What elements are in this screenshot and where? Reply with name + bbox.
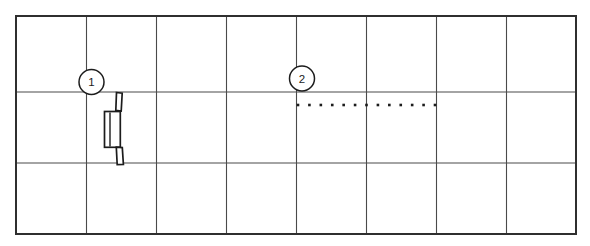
dotted-line (297, 104, 437, 107)
scanned-figure-page: 1 2 (0, 0, 590, 246)
figure-canvas: 1 2 (0, 0, 590, 246)
callout-2-label: 2 (299, 73, 305, 85)
part-bottom-tab (116, 147, 123, 165)
part-sketch (105, 93, 124, 165)
callout-1-label: 1 (88, 76, 94, 88)
callout-1: 1 (79, 70, 104, 95)
part-top-tab (116, 93, 122, 112)
callout-2: 2 (290, 66, 315, 91)
grid-lines (16, 16, 576, 234)
part-middle-box (105, 112, 121, 148)
